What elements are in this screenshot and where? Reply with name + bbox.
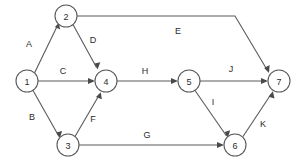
edge-label-B: B bbox=[29, 112, 35, 122]
node-1: 1 bbox=[16, 70, 38, 92]
edge-H bbox=[117, 78, 178, 84]
edge-E bbox=[77, 16, 270, 73]
node-7-label: 7 bbox=[276, 77, 281, 87]
edge-label-E: E bbox=[175, 26, 181, 36]
edge-J-arrowhead bbox=[261, 78, 268, 84]
edge-label-G: G bbox=[143, 130, 150, 140]
node-3: 3 bbox=[57, 134, 79, 156]
edge-label-F: F bbox=[90, 114, 96, 124]
node-6-label: 6 bbox=[232, 141, 237, 151]
edge-label-C: C bbox=[60, 66, 67, 76]
edge-label-H: H bbox=[142, 66, 149, 76]
node-6: 6 bbox=[224, 134, 246, 156]
node-5: 5 bbox=[178, 70, 200, 92]
edge-D bbox=[73, 25, 100, 70]
node-5-label: 5 bbox=[186, 77, 191, 87]
edge-B bbox=[33, 91, 62, 138]
network-diagram-canvas: A B C D E F G H I J K 1 2 3 4 5 bbox=[0, 0, 304, 167]
node-4: 4 bbox=[95, 70, 117, 92]
edge-K bbox=[243, 91, 275, 136]
edge-B-line bbox=[33, 91, 59, 137]
node-2-label: 2 bbox=[63, 12, 68, 22]
node-7: 7 bbox=[268, 70, 290, 92]
edge-label-D: D bbox=[90, 35, 97, 45]
edge-G bbox=[79, 142, 224, 148]
edge-F bbox=[75, 92, 102, 136]
edge-A bbox=[35, 23, 61, 73]
edge-label-K: K bbox=[260, 119, 266, 129]
edge-J bbox=[200, 78, 268, 84]
node-1-label: 1 bbox=[24, 77, 29, 87]
edge-H-arrowhead bbox=[171, 78, 178, 84]
edge-F-line bbox=[75, 95, 100, 137]
edge-C-arrowhead bbox=[88, 78, 95, 84]
node-3-label: 3 bbox=[65, 141, 70, 151]
edge-label-I: I bbox=[212, 97, 215, 107]
edge-A-line bbox=[35, 25, 59, 74]
edge-D-line bbox=[73, 25, 97, 68]
node-2: 2 bbox=[55, 5, 77, 27]
edge-C bbox=[38, 78, 95, 84]
edge-label-A: A bbox=[26, 39, 32, 49]
network-diagram: A B C D E F G H I J K 1 2 3 4 5 bbox=[0, 0, 304, 167]
edge-label-J: J bbox=[229, 64, 234, 74]
edge-E-line bbox=[77, 16, 268, 71]
node-4-label: 4 bbox=[103, 77, 108, 87]
edge-G-arrowhead bbox=[217, 142, 224, 148]
edge-K-line bbox=[243, 94, 272, 137]
